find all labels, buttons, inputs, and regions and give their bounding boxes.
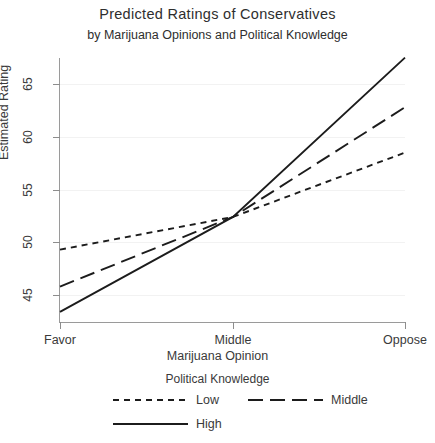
y-axis-title: Estimated Rating bbox=[0, 65, 11, 160]
x-tick-middle bbox=[233, 322, 234, 329]
x-tick-favor bbox=[60, 322, 61, 329]
y-tick-label-55: 55 bbox=[21, 170, 35, 210]
x-tick-label-middle: Middle bbox=[193, 333, 273, 347]
y-tick-50 bbox=[53, 242, 60, 243]
chart-subtitle: by Marijuana Opinions and Political Know… bbox=[0, 28, 435, 42]
x-axis-line bbox=[59, 322, 405, 323]
x-tick-oppose bbox=[405, 322, 406, 329]
series-line-high bbox=[60, 58, 405, 312]
gridline-55 bbox=[60, 190, 405, 191]
chart-root: Predicted Ratings of Conservatives by Ma… bbox=[0, 0, 435, 443]
x-tick-label-oppose: Oppose bbox=[365, 333, 435, 347]
gridline-65 bbox=[60, 84, 405, 85]
x-tick-label-favor: Favor bbox=[20, 333, 100, 347]
series-line-low bbox=[60, 153, 405, 250]
y-tick-55 bbox=[53, 190, 60, 191]
y-tick-60 bbox=[53, 137, 60, 138]
y-tick-label-50: 50 bbox=[21, 222, 35, 262]
gridline-60 bbox=[60, 137, 405, 138]
y-tick-45 bbox=[53, 295, 60, 296]
gridline-50 bbox=[60, 242, 405, 243]
y-tick-label-65: 65 bbox=[21, 64, 35, 104]
chart-title: Predicted Ratings of Conservatives bbox=[0, 6, 435, 22]
legend-title: Political Knowledge bbox=[0, 372, 435, 386]
x-axis-title: Marijuana Opinion bbox=[0, 349, 435, 363]
series-line-middle bbox=[60, 107, 405, 286]
legend-label-middle: Middle bbox=[331, 393, 368, 407]
y-tick-label-60: 60 bbox=[21, 117, 35, 157]
legend-label-high: High bbox=[196, 417, 222, 431]
y-tick-65 bbox=[53, 84, 60, 85]
y-tick-label-45: 45 bbox=[21, 275, 35, 315]
gridline-45 bbox=[60, 295, 405, 296]
legend-label-low: Low bbox=[196, 393, 219, 407]
